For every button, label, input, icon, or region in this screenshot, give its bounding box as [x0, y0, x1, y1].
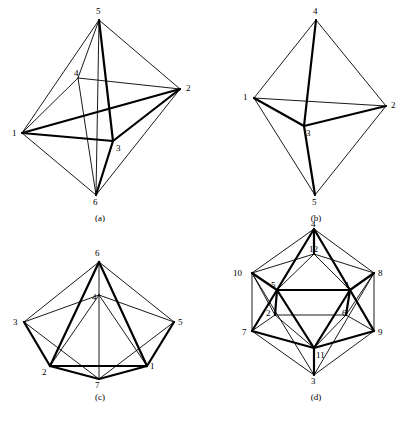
vertex-label-11: 11	[316, 351, 325, 360]
panel-c: 1234567(c)	[0, 220, 202, 437]
edge-2-7	[50, 366, 99, 379]
edge-8-1	[350, 273, 374, 290]
edge-2-4	[316, 20, 386, 106]
vertex-label-5: 5	[271, 281, 276, 290]
edge-4-10	[252, 229, 314, 273]
vertex-label-12: 12	[309, 245, 318, 254]
edge-3-7	[24, 322, 99, 379]
edge-1-5	[22, 20, 99, 133]
edge-1-3	[254, 98, 304, 126]
graph-a	[0, 0, 202, 220]
panel-caption-c: (c)	[95, 392, 105, 402]
edge-5-6	[99, 262, 174, 322]
vertex-label-6: 6	[342, 309, 347, 318]
edge-1-6	[22, 133, 96, 195]
vertex-label-3: 3	[13, 318, 18, 327]
vertex-label-5: 5	[96, 7, 101, 16]
edge-1-4	[99, 295, 147, 366]
panel-d: 123456789101112(d)	[202, 220, 404, 437]
vertex-label-4: 4	[313, 7, 318, 16]
vertex-label-2: 2	[391, 101, 396, 110]
vertex-label-7: 7	[242, 328, 247, 337]
edge-2-4	[78, 78, 180, 89]
edge-1-3	[22, 133, 113, 141]
graph-c	[0, 220, 202, 437]
panel-b: 12345(b)	[202, 0, 404, 220]
edge-2-6	[50, 262, 99, 366]
vertex-label-1: 1	[243, 93, 248, 102]
panel-caption-d: (d)	[311, 392, 322, 402]
edge-3-6	[24, 262, 99, 322]
edge-5-7	[99, 322, 174, 379]
edge-4-5	[99, 295, 174, 322]
vertex-label-1: 1	[12, 129, 17, 138]
edge-2-5	[315, 106, 386, 195]
panel-a: 123456(a)	[0, 0, 202, 220]
edge-3-6	[96, 141, 113, 195]
edge-2-3	[113, 89, 180, 141]
edge-2-7	[252, 315, 275, 331]
vertex-label-3: 3	[116, 144, 121, 153]
edge-4-6	[78, 78, 96, 195]
edge-3-4	[24, 295, 99, 322]
vertex-label-5: 5	[178, 318, 183, 327]
edge-2-3	[24, 322, 50, 366]
edge-1-2	[254, 98, 386, 106]
edge-4-5	[78, 20, 99, 78]
vertex-label-2: 2	[186, 84, 191, 93]
vertex-label-5: 5	[312, 198, 317, 207]
edge-1-5	[147, 322, 174, 366]
vertex-label-10: 10	[233, 269, 242, 278]
vertex-label-2: 2	[42, 368, 47, 377]
edge-4-8	[314, 229, 374, 273]
edge-1-2	[22, 89, 180, 133]
vertex-label-4: 4	[74, 69, 79, 78]
vertex-label-6: 6	[93, 198, 98, 207]
edge-1-6	[99, 262, 147, 366]
vertex-label-6: 6	[95, 249, 100, 258]
edge-2-5	[99, 20, 180, 89]
edge-5-6	[96, 20, 99, 195]
figure-grid: 123456(a)12345(b)1234567(c)1234567891011…	[0, 0, 404, 437]
edge-7-3	[252, 331, 314, 375]
edge-1-7	[99, 366, 147, 379]
vertex-label-8: 8	[378, 269, 383, 278]
edge-1-4	[254, 20, 316, 98]
edge-1-9	[350, 290, 374, 331]
vertex-label-1: 1	[150, 362, 155, 371]
vertex-label-1: 1	[345, 281, 350, 290]
edge-3-4	[304, 20, 316, 126]
edge-2-4	[50, 295, 99, 366]
graph-b	[202, 0, 404, 220]
vertex-label-2: 2	[266, 309, 271, 318]
graph-d	[202, 220, 404, 437]
vertex-label-9: 9	[378, 328, 383, 337]
vertex-label-4: 4	[92, 293, 97, 302]
vertex-label-3: 3	[306, 129, 311, 138]
vertex-label-4: 4	[311, 220, 316, 229]
edge-2-3	[304, 106, 386, 126]
vertex-label-7: 7	[95, 381, 100, 390]
vertex-label-3: 3	[311, 377, 316, 386]
